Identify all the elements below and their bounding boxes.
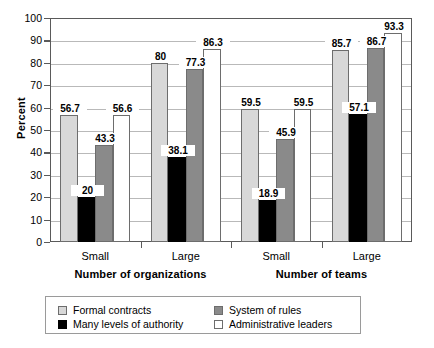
- legend-item: System of rules: [214, 304, 301, 316]
- x-axis-tick: [231, 242, 232, 248]
- bar-value-label: 80: [144, 51, 178, 62]
- bar-value-label: 38.1: [161, 145, 195, 156]
- bar: [349, 114, 367, 242]
- x-axis-group-title: Number of teams: [276, 268, 367, 280]
- bars-layer: 56.72043.356.68038.177.386.359.518.945.9…: [50, 18, 412, 242]
- bar-value-label: 86.3: [196, 37, 230, 48]
- x-axis-tick: [141, 242, 142, 248]
- legend-swatch-icon: [214, 306, 223, 315]
- bar-value-label: 77.3: [179, 57, 213, 68]
- bar: [60, 115, 78, 242]
- bar: [78, 197, 96, 242]
- y-tick-label: 0: [16, 236, 42, 248]
- y-tick-mark: [44, 242, 50, 243]
- x-axis-tick: [322, 242, 323, 248]
- y-tick-label: 20: [16, 191, 42, 203]
- y-tick-label: 90: [16, 34, 42, 46]
- legend-item: Administrative leaders: [214, 318, 332, 330]
- y-tick-label: 30: [16, 169, 42, 181]
- bar-value-label: 59.5: [234, 97, 268, 108]
- bar: [259, 200, 277, 242]
- legend-swatch-icon: [58, 306, 67, 315]
- x-group-label: Small: [81, 250, 109, 262]
- bar: [241, 109, 259, 242]
- bar-value-label: 18.9: [252, 188, 286, 199]
- x-group-label: Small: [262, 250, 290, 262]
- y-tick-label: 70: [16, 79, 42, 91]
- y-tick-label: 10: [16, 214, 42, 226]
- bar: [367, 48, 385, 242]
- legend-item-label: Many levels of authority: [73, 318, 183, 330]
- bar-value-label: 56.7: [53, 103, 87, 114]
- bar-value-label: 45.9: [269, 127, 303, 138]
- bar: [203, 49, 221, 242]
- bar-value-label: 86.7: [360, 36, 394, 47]
- legend-item-label: System of rules: [229, 304, 301, 316]
- legend-item: Many levels of authority: [58, 318, 183, 330]
- y-tick-label: 40: [16, 146, 42, 158]
- bar-value-label: 59.5: [287, 97, 321, 108]
- bar-chart: Percent 0102030405060708090100 56.72043.…: [0, 0, 434, 348]
- bar-value-label: 57.1: [342, 102, 376, 113]
- bar-value-label: 93.3: [377, 21, 411, 32]
- y-tick-label: 60: [16, 102, 42, 114]
- bar-value-label: 43.3: [88, 133, 122, 144]
- legend-swatch-icon: [58, 320, 67, 329]
- y-tick-label: 80: [16, 57, 42, 69]
- bar: [384, 33, 402, 242]
- x-group-label: Large: [172, 250, 200, 262]
- bar: [332, 50, 350, 242]
- bar-value-label: 85.7: [325, 38, 359, 49]
- legend-item-label: Administrative leaders: [229, 318, 332, 330]
- y-tick-label: 50: [16, 124, 42, 136]
- legend-item: Formal contracts: [58, 304, 151, 316]
- x-axis-group-title: Number of organizations: [75, 268, 207, 280]
- legend-item-label: Formal contracts: [73, 304, 151, 316]
- x-group-label: Large: [353, 250, 381, 262]
- bar-value-label: 56.6: [106, 103, 140, 114]
- legend-swatch-icon: [214, 320, 223, 329]
- legend: Formal contractsSystem of rulesMany leve…: [45, 296, 361, 334]
- bar: [168, 157, 186, 242]
- y-tick-label: 100: [16, 12, 42, 24]
- bar-value-label: 20: [71, 185, 105, 196]
